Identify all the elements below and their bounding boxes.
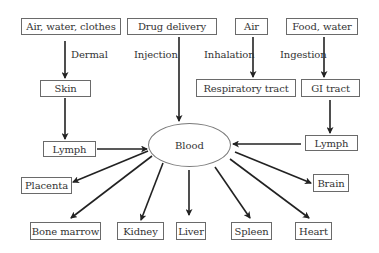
target-liver-label: Liver <box>178 226 204 237</box>
arrow-blood-to-brain <box>235 152 311 183</box>
entry-gi-tract: GI tract <box>301 79 360 97</box>
target-kidney: Kidney <box>117 222 164 240</box>
blood-node: Blood <box>148 123 231 167</box>
entry-skin: Skin <box>40 80 91 97</box>
entry-respiratory-tract: Respiratory tract <box>196 79 296 97</box>
arrow-blood-to-kidney <box>141 163 163 220</box>
lymph-left: Lymph <box>43 141 96 157</box>
source-air: Air <box>235 18 268 35</box>
entry-gi-tract-label: GI tract <box>311 83 350 94</box>
entry-respiratory-tract-label: Respiratory tract <box>203 83 288 94</box>
source-drug-delivery: Drug delivery <box>127 18 217 35</box>
target-spleen: Spleen <box>231 222 272 240</box>
target-spleen-label: Spleen <box>234 226 268 237</box>
source-food-water-label: Food, water <box>292 21 351 32</box>
lymph-right-label: Lymph <box>315 138 349 149</box>
target-brain: Brain <box>313 174 349 192</box>
arrow-blood-to-heart <box>230 159 309 218</box>
source-air-water-clothes-label: Air, water, clothes <box>26 21 115 32</box>
exposure-pathway-diagram: Air, water, clothes Drug delivery Air Fo… <box>0 0 379 253</box>
entry-skin-label: Skin <box>54 83 76 94</box>
target-placenta: Placenta <box>21 177 72 194</box>
source-air-label: Air <box>244 21 259 32</box>
source-drug-delivery-label: Drug delivery <box>138 21 206 32</box>
lymph-right: Lymph <box>305 135 358 151</box>
target-bone-marrow-label: Bone marrow <box>32 226 99 237</box>
blood-label: Blood <box>175 140 204 151</box>
target-brain-label: Brain <box>317 178 344 189</box>
source-air-water-clothes: Air, water, clothes <box>21 18 121 35</box>
target-placenta-label: Placenta <box>25 180 68 191</box>
route-label-injection: Injection <box>134 49 178 60</box>
arrow-blood-to-spleen <box>215 167 250 218</box>
source-food-water: Food, water <box>286 18 358 35</box>
target-heart-label: Heart <box>299 226 328 237</box>
route-label-ingestion: Ingestion <box>280 49 327 60</box>
target-kidney-label: Kidney <box>123 226 157 237</box>
target-bone-marrow: Bone marrow <box>30 222 101 240</box>
target-liver: Liver <box>176 222 206 240</box>
route-label-dermal: Dermal <box>71 49 108 60</box>
route-label-inhalation: Inhalation <box>204 49 255 60</box>
lymph-left-label: Lymph <box>53 144 87 155</box>
target-heart: Heart <box>295 222 332 240</box>
